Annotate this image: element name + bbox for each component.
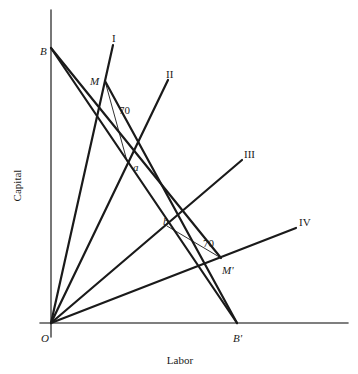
budget-line-bb: [51, 48, 237, 323]
point-label-m-prime: M': [222, 265, 234, 276]
ray-label-II: II: [166, 69, 173, 80]
y-axis-title: Capital: [12, 166, 23, 206]
isocost-line-M-to-B-prime: [105, 81, 237, 323]
ray-label-III: III: [244, 149, 255, 160]
ray-label-IV: IV: [299, 217, 311, 228]
budget-end-label-b-prime: B': [233, 333, 242, 344]
point-label-m: M: [90, 76, 99, 87]
rays-group: [51, 45, 296, 323]
ray-label-I: I: [112, 33, 116, 44]
ray-line-IV: [51, 228, 296, 323]
origin-label: O: [41, 333, 49, 344]
budget-start-label-b: B: [40, 46, 47, 57]
point-label-a: a: [133, 162, 139, 173]
economics-ray-diagram: Capital Labor O IIIIIIIVBB'7070abMM': [0, 0, 358, 374]
ray-line-II: [51, 80, 168, 323]
isocost-line-B-to-M-prime: [51, 48, 221, 258]
point-label-b: b: [163, 216, 169, 227]
angle-label-70-0: 70: [119, 105, 130, 116]
x-axis-title: Labor: [150, 355, 210, 366]
budget-line-group: [51, 48, 237, 323]
axes-group: [40, 10, 348, 337]
diagram-canvas: [0, 0, 358, 374]
angle-marker-line-0: [105, 81, 127, 161]
angle-label-70-1: 70: [203, 238, 214, 249]
